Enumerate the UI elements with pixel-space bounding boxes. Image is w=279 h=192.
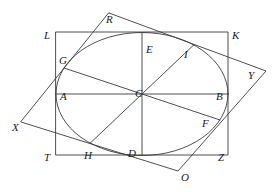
point-label-Y: Y: [248, 70, 254, 81]
point-label-I: I: [184, 49, 188, 60]
point-label-A: A: [60, 91, 67, 102]
point-label-B: B: [216, 91, 223, 102]
point-label-T: T: [44, 152, 50, 163]
point-label-H: H: [84, 150, 92, 161]
point-label-C: C: [135, 88, 142, 99]
point-label-D: D: [128, 148, 136, 159]
point-label-G: G: [59, 55, 67, 66]
diagram-canvas: LKTZRYOXCABEDGIFH: [0, 0, 279, 192]
point-label-F: F: [202, 118, 209, 129]
point-label-K: K: [232, 30, 239, 41]
point-label-R: R: [106, 14, 113, 25]
point-label-O: O: [181, 172, 189, 183]
point-label-Z: Z: [218, 152, 224, 163]
point-label-X: X: [12, 122, 19, 133]
point-label-L: L: [44, 30, 50, 41]
point-label-E: E: [146, 44, 153, 55]
